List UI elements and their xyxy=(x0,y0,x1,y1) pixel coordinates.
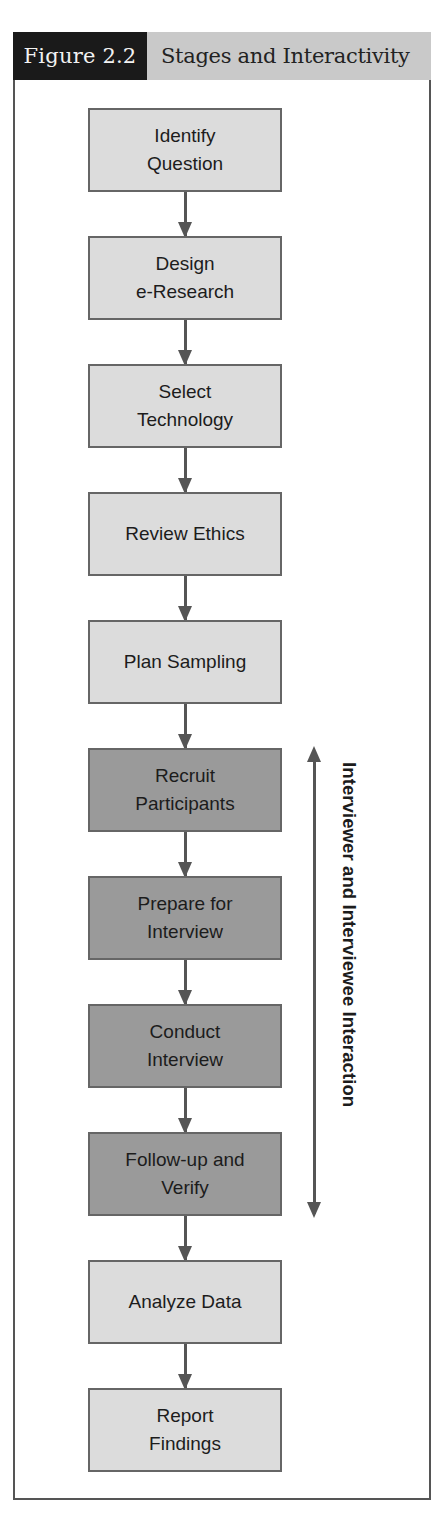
stage-analyze-data: Analyze Data xyxy=(88,1260,282,1344)
stage-prepare-for-interview: Prepare for Interview xyxy=(88,876,282,960)
flow-arrow xyxy=(184,448,187,492)
interaction-span-line xyxy=(313,752,316,1214)
flow-arrow xyxy=(184,192,187,236)
flow-arrow xyxy=(184,320,187,364)
flow-arrow xyxy=(184,960,187,1004)
stage-identify-question: Identify Question xyxy=(88,108,282,192)
stage-recruit-participants: Recruit Participants xyxy=(88,748,282,832)
stage-report-findings: Report Findings xyxy=(88,1388,282,1472)
stage-follow-up-and-verify: Follow-up and Verify xyxy=(88,1132,282,1216)
figure-number: Figure 2.2 xyxy=(13,32,147,80)
stage-plan-sampling: Plan Sampling xyxy=(88,620,282,704)
flow-arrow xyxy=(184,1344,187,1388)
flow-arrow xyxy=(184,1088,187,1132)
stage-conduct-interview: Conduct Interview xyxy=(88,1004,282,1088)
flow-arrow xyxy=(184,704,187,748)
flow-arrow xyxy=(184,1216,187,1260)
figure-title: Stages and Interactivity xyxy=(161,32,410,80)
interaction-span-label: Interviewer and Interviewee Interaction xyxy=(334,762,364,1202)
stage-review-ethics: Review Ethics xyxy=(88,492,282,576)
flow-arrow xyxy=(184,832,187,876)
figure-header: Figure 2.2 Stages and Interactivity xyxy=(13,32,431,80)
arrow-down-icon xyxy=(307,1202,321,1218)
stage-select-technology: Select Technology xyxy=(88,364,282,448)
flow-arrow xyxy=(184,576,187,620)
interaction-span-text: Interviewer and Interviewee Interaction xyxy=(338,762,360,1107)
stage-design-e-research: Design e-Research xyxy=(88,236,282,320)
